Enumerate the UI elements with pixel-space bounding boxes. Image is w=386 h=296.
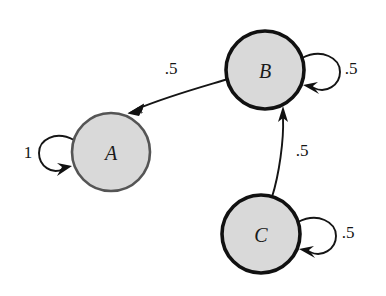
self-loop-c xyxy=(298,218,336,258)
state-diagram-container: A B C 1 .5 .5 .5 .5 xyxy=(0,0,386,296)
self-loop-c-arrowhead xyxy=(299,246,315,258)
node-a-label: A xyxy=(103,142,118,164)
edge-b-to-a-path xyxy=(137,79,228,109)
self-loop-b-arrowhead xyxy=(303,82,319,94)
node-b[interactable]: B xyxy=(226,31,304,109)
edge-label-c-to-b: .5 xyxy=(296,141,309,160)
edge-c-to-b xyxy=(272,106,288,197)
self-loop-a xyxy=(39,136,74,176)
node-a[interactable]: A xyxy=(72,113,150,191)
edge-b-to-a xyxy=(128,79,229,116)
node-c[interactable]: C xyxy=(222,195,300,273)
edge-label-b-self: .5 xyxy=(345,59,358,78)
edge-b-to-a-arrowhead-fill xyxy=(128,104,145,117)
self-loop-b xyxy=(302,54,340,94)
node-b-label: B xyxy=(259,60,271,82)
edge-c-to-b-path xyxy=(272,118,283,197)
edge-label-c-self: .5 xyxy=(342,223,355,242)
self-loop-a-arrowhead xyxy=(57,163,72,176)
node-c-label: C xyxy=(254,224,268,246)
edge-label-b-to-a: .5 xyxy=(165,59,178,78)
edge-label-a-self: 1 xyxy=(24,143,33,162)
state-diagram-canvas: A B C 1 .5 .5 .5 .5 xyxy=(0,0,386,296)
